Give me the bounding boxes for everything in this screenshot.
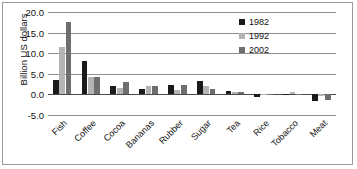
y-tick-label: -5.0: [28, 110, 44, 121]
legend-label-1992: 1992: [249, 31, 269, 41]
legend-swatch-icon-1982: [239, 19, 245, 25]
y-tick-label: 10.0: [26, 48, 45, 59]
bar: [312, 94, 318, 100]
legend-item-1982: 1982: [239, 16, 291, 28]
bars-layer: [48, 12, 336, 115]
bar: [181, 85, 187, 94]
bar: [117, 88, 123, 94]
bar: [267, 94, 273, 95]
legend-item-1992: 1992: [239, 30, 291, 42]
bar: [139, 89, 145, 94]
bar: [94, 77, 100, 94]
bar: [203, 86, 209, 94]
legend-item-2002: 2002: [239, 44, 291, 56]
bar: [82, 61, 88, 94]
bar: [238, 92, 244, 94]
legend-label-1982: 1982: [249, 17, 269, 27]
bar: [254, 94, 260, 96]
bar: [283, 94, 289, 95]
bar: [59, 47, 65, 94]
bar: [66, 22, 72, 94]
bar: [88, 77, 94, 95]
plot-area: 20.015.010.05.00.0-5.0: [48, 12, 336, 115]
bar: [146, 86, 152, 94]
bar: [232, 92, 238, 94]
bar: [226, 91, 232, 95]
bar: [261, 94, 267, 95]
bar: [325, 94, 331, 99]
bar: [210, 89, 216, 94]
gridline: -5.0: [48, 115, 336, 116]
y-tick-label: 0.0: [31, 89, 44, 100]
legend-label-2002: 2002: [249, 45, 269, 55]
y-tick-label: 5.0: [31, 68, 44, 79]
legend-swatch-icon-1992: [239, 33, 245, 39]
bar: [290, 92, 296, 94]
legend-swatch-icon-2002: [239, 47, 245, 53]
bar: [53, 80, 59, 94]
y-tick-label: 15.0: [26, 27, 45, 38]
bar: [152, 86, 158, 94]
bar-chart-figure: Billion US dollars 20.015.010.05.00.0-5.…: [0, 0, 357, 169]
bar: [123, 82, 129, 94]
legend: 1982 1992 2002: [239, 16, 291, 58]
bar: [168, 85, 174, 94]
bar: [318, 94, 324, 95]
bar: [296, 94, 302, 95]
bar: [197, 81, 203, 94]
bar: [174, 90, 180, 94]
category-axis-labels: FishCoffeeCocoaBananasRubberSugarTeaRice…: [48, 118, 336, 166]
bar: [110, 86, 116, 94]
y-tick-label: 20.0: [26, 7, 45, 18]
